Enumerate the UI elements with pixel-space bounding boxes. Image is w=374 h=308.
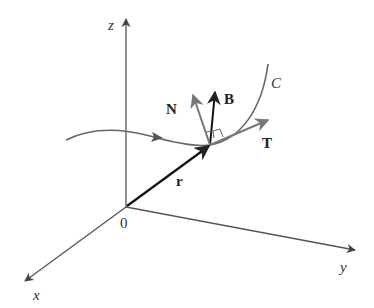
vector-label-b: B [224, 91, 234, 107]
x-axis [25, 207, 126, 281]
vector-label-r: r [176, 173, 183, 189]
y-axis [126, 207, 355, 250]
origin-label: 0 [120, 215, 128, 231]
tnb-frame-diagram: z y x 0 C r T N B [0, 0, 374, 308]
curve-label-c: C [271, 75, 282, 91]
right-angle-mark [213, 129, 223, 137]
vector-label-n: N [166, 101, 177, 117]
y-axis-label: y [338, 259, 347, 275]
vector-label-t: T [262, 135, 272, 151]
tangent-vector-t [210, 120, 268, 145]
normal-vector-n [193, 95, 210, 145]
position-vector-r [127, 146, 209, 206]
diagram-canvas: z y x 0 C r T N B [0, 0, 374, 308]
z-axis-label: z [107, 17, 114, 33]
x-axis-label: x [32, 287, 40, 303]
